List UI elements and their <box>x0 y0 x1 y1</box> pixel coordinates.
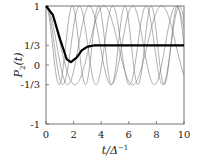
x-tick-6: 6 <box>126 129 132 140</box>
y-tick-0: 0 <box>34 60 40 71</box>
axis-ticks <box>46 6 184 124</box>
x-axis-label: t/Δ−1 <box>102 144 128 157</box>
x-tick-2: 2 <box>70 129 76 140</box>
y-tick-neg-1: -1 <box>30 119 40 130</box>
chart: 1 1/3 0 -1/3 -1 0 2 4 6 8 10 t/Δ−1 P2(t) <box>0 0 200 166</box>
y-tick-1: 1 <box>34 1 40 12</box>
y-axis-label: P2(t) <box>12 53 27 79</box>
curves <box>46 6 184 85</box>
x-tick-4: 4 <box>98 129 104 140</box>
x-tick-0: 0 <box>43 129 49 140</box>
plot-frame <box>46 6 184 124</box>
x-tick-8: 8 <box>153 129 159 140</box>
y-tick-neg-1-3: -1/3 <box>21 79 40 90</box>
y-tick-1-3: 1/3 <box>24 40 40 51</box>
x-tick-10: 10 <box>178 129 191 140</box>
x-tick-labels: 0 2 4 6 8 10 <box>43 129 191 140</box>
